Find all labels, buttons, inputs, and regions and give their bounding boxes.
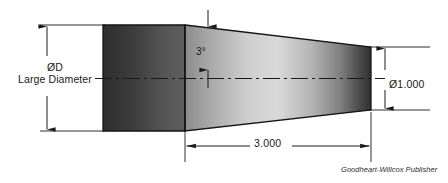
taper-length-dimension-text: 3.000: [254, 138, 281, 149]
publisher-credit: Goodheart-Willcox Publisher: [341, 166, 437, 174]
large-diameter-caption: Large Diameter: [18, 74, 92, 85]
large-diameter-label: ØD Large Diameter: [18, 62, 92, 85]
small-diameter-dimension-text: Ø1.000: [389, 79, 425, 90]
large-diameter-symbol: ØD: [18, 62, 92, 73]
drawing-vector-layer: [0, 0, 448, 183]
taper-angle-text: 3°: [196, 47, 206, 58]
technical-drawing-canvas: ØD Large Diameter Ø1.000 3.000 3° Goodhe…: [0, 0, 448, 183]
